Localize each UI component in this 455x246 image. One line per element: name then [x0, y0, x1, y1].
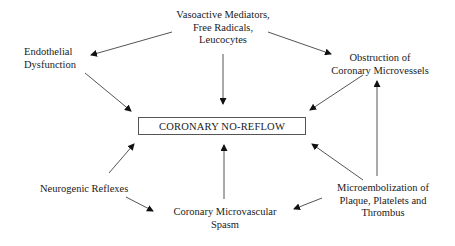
diagram-canvas: Vasoactive Mediators, Free Radicals, Leu…: [0, 0, 455, 246]
edge-neurogenic-to-no-reflow: [109, 144, 134, 173]
node-line: Leucocytes: [159, 34, 287, 47]
node-neurogenic-reflexes: Neurogenic Reflexes: [40, 183, 128, 196]
center-box-coronary-no-reflow: CORONARY NO-REFLOW: [138, 117, 306, 135]
node-microembolization: Microembolization of Plaque, Platelets a…: [317, 182, 449, 220]
node-line: Dysfunction: [24, 59, 76, 72]
node-line: Obstruction of: [320, 52, 440, 65]
node-line: Free Radicals,: [159, 22, 287, 35]
node-line: Thrombus: [317, 207, 449, 220]
node-vasoactive-mediators: Vasoactive Mediators, Free Radicals, Leu…: [159, 9, 287, 47]
edge-obstruction-to-no-reflow: [310, 75, 363, 110]
node-obstruction-of-coronary-microvessels: Obstruction of Coronary Microvessels: [320, 52, 440, 77]
node-line: Spasm: [165, 219, 285, 232]
node-line: Coronary Microvascular: [165, 206, 285, 219]
node-endothelial-dysfunction: Endothelial Dysfunction: [24, 46, 76, 71]
edge-endothelial-to-no-reflow: [85, 73, 131, 111]
node-coronary-microvascular-spasm: Coronary Microvascular Spasm: [165, 206, 285, 231]
node-line: Neurogenic Reflexes: [40, 183, 128, 196]
center-label: CORONARY NO-REFLOW: [159, 121, 285, 132]
node-line: Microembolization of: [317, 182, 449, 195]
edge-microembolization-to-no-reflow: [312, 144, 363, 180]
edge-neurogenic-to-spasm: [126, 197, 153, 211]
node-line: Endothelial: [24, 46, 76, 59]
node-line: Vasoactive Mediators,: [159, 9, 287, 22]
node-line: Plaque, Platelets and: [317, 195, 449, 208]
node-line: Coronary Microvessels: [320, 65, 440, 78]
